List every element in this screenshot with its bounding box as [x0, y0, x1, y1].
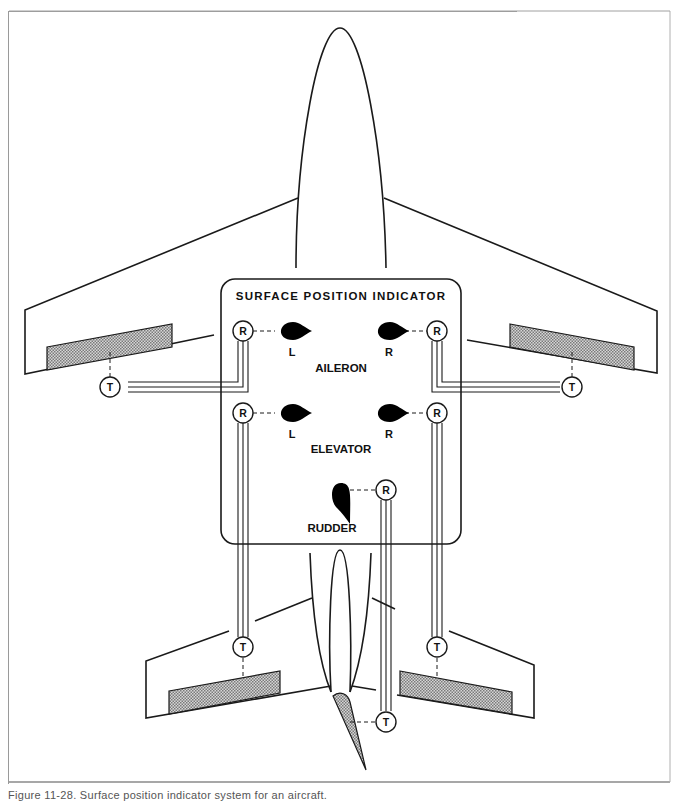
transmitter-elevator-right: T	[427, 637, 447, 657]
left-stab-root	[255, 598, 312, 621]
transmitter-icon: T	[569, 381, 576, 393]
aileron-label: AILERON	[315, 362, 367, 374]
fuselage-nose	[296, 28, 386, 268]
left-aileron	[47, 324, 172, 370]
left-elevator	[169, 671, 280, 714]
transmitter-icon: T	[240, 641, 247, 653]
receiver-icon: R	[239, 407, 247, 419]
transmitter-aileron-left: T	[100, 377, 120, 397]
receiver-aileron-right: R	[427, 321, 447, 341]
elevator-right-label: R	[385, 428, 393, 440]
receiver-icon: R	[433, 325, 441, 337]
transmitter-rudder: T	[376, 712, 396, 732]
transmitter-elevator-left: T	[233, 637, 253, 657]
receiver-aileron-left: R	[233, 321, 253, 341]
rudder-surface	[333, 693, 366, 770]
right-aileron	[510, 324, 634, 370]
aileron-left-label: L	[289, 346, 296, 358]
receiver-icon: R	[382, 484, 390, 496]
receiver-rudder: R	[376, 480, 396, 500]
transmitter-icon: T	[383, 716, 390, 728]
receiver-icon: R	[433, 407, 441, 419]
right-stab-root-b	[352, 686, 376, 690]
panel-title: SURFACE POSITION INDICATOR	[236, 290, 446, 302]
rear-fuselage-left	[310, 553, 331, 692]
elevator-label: ELEVATOR	[311, 443, 372, 455]
right-elevator	[400, 671, 512, 714]
receiver-icon: R	[239, 325, 247, 337]
rudder-label: RUDDER	[307, 522, 357, 534]
transmitter-icon: T	[107, 381, 114, 393]
aileron-right-label: R	[385, 346, 393, 358]
transmitter-aileron-right: T	[562, 377, 582, 397]
elevator-left-label: L	[289, 428, 296, 440]
vertical-fin	[330, 550, 351, 692]
receiver-elevator-right: R	[427, 403, 447, 423]
rear-fuselage-right	[350, 553, 371, 692]
transmitter-icon: T	[434, 641, 441, 653]
figure-caption: Figure 11-28. Surface position indicator…	[8, 789, 327, 801]
receiver-elevator-left: R	[233, 403, 253, 423]
